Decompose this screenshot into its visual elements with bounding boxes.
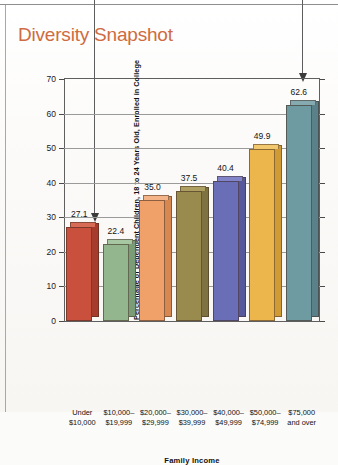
y-tick-20 <box>59 252 64 253</box>
bar-1: 27.1 <box>66 227 92 321</box>
bar-4: 37.5 <box>176 191 202 321</box>
page-title: Diversity Snapshot <box>18 24 173 46</box>
bar-value-label: 40.4 <box>217 163 234 173</box>
plot-frame-bottom <box>64 321 320 322</box>
plot-area: Percentage of Dependent Children, 18 to … <box>64 78 320 322</box>
x-tick-label-2: $10,000–$19,999 <box>101 408 138 427</box>
page-rule-top <box>0 4 338 5</box>
y-tick-10 <box>59 286 64 287</box>
y-tick-label-30: 30 <box>34 212 56 222</box>
x-tick-label-4: $30,000–$39,999 <box>174 408 211 427</box>
bar-front-face <box>213 181 239 321</box>
bar-value-label: 62.6 <box>290 87 307 97</box>
plot-frame-left <box>64 78 65 322</box>
x-tick-label-line: $39,999 <box>174 418 211 428</box>
y-tick-right-30 <box>320 217 325 218</box>
y-tick-right-60 <box>320 114 325 115</box>
y-tick-right-70 <box>320 79 325 80</box>
bar-front-face <box>249 149 275 322</box>
y-tick-40 <box>59 183 64 184</box>
y-tick-label-10: 10 <box>34 281 56 291</box>
y-tick-right-0 <box>320 321 325 322</box>
y-tick-label-20: 20 <box>34 247 56 257</box>
y-tick-label-50: 50 <box>34 143 56 153</box>
bar-6: 49.9 <box>249 149 275 322</box>
bar-side-face <box>129 240 136 317</box>
bar-value-label: 22.4 <box>108 226 125 236</box>
bar-value-label: 27.1 <box>71 209 88 219</box>
y-tick-label-0: 0 <box>34 316 56 326</box>
bar-side-face <box>312 101 319 317</box>
bar-7: 62.6 <box>286 105 312 321</box>
y-tick-50 <box>59 148 64 149</box>
bar-value-label: 37.5 <box>181 173 198 183</box>
bar-side-face <box>202 187 209 317</box>
bar-value-label: 49.9 <box>254 131 271 141</box>
y-tick-60 <box>59 114 64 115</box>
x-tick-label-line: Under <box>64 408 101 418</box>
x-tick-label-line: $74,999 <box>247 418 284 428</box>
bar-5: 40.4 <box>213 181 239 321</box>
x-tick-label-line: $50,000– <box>247 408 284 418</box>
y-tick-right-50 <box>320 148 325 149</box>
y-tick-label-60: 60 <box>34 109 56 119</box>
x-tick-label-line: $49,999 <box>210 418 247 428</box>
bar-front-face <box>66 227 92 321</box>
plot-frame-top <box>64 78 320 79</box>
bar-side-face <box>92 223 99 317</box>
bar-side-face <box>239 177 246 317</box>
x-tick-label-line: $10,000– <box>101 408 138 418</box>
leader-line-highest <box>302 0 303 74</box>
page-rule-left <box>5 5 6 412</box>
plot-frame-right <box>319 78 320 322</box>
x-tick-label-line: $30,000– <box>174 408 211 418</box>
y-tick-30 <box>59 217 64 218</box>
y-tick-0 <box>59 321 64 322</box>
x-tick-label-line: $40,000– <box>210 408 247 418</box>
bar-3: 35.0 <box>139 200 165 321</box>
bar-2: 22.4 <box>103 244 129 321</box>
x-tick-label-5: $40,000–$49,999 <box>210 408 247 427</box>
bar-front-face <box>176 191 202 321</box>
y-tick-label-70: 70 <box>34 74 56 84</box>
y-tick-right-20 <box>320 252 325 253</box>
bar-side-face <box>165 196 172 317</box>
x-axis-title: Family Income <box>64 456 320 465</box>
x-tick-label-line: $75,000 <box>283 408 320 418</box>
y-tick-label-40: 40 <box>34 178 56 188</box>
y-tick-right-40 <box>320 183 325 184</box>
y-tick-right-10 <box>320 286 325 287</box>
bar-side-face <box>275 145 282 318</box>
x-tick-label-7: $75,000and over <box>283 408 320 427</box>
gridline-60 <box>64 114 320 115</box>
x-tick-label-6: $50,000–$74,999 <box>247 408 284 427</box>
x-tick-label-line: $29,999 <box>137 418 174 428</box>
bar-front-face <box>139 200 165 321</box>
bar-value-label: 35.0 <box>144 182 161 192</box>
x-tick-label-line: and over <box>283 418 320 428</box>
x-tick-label-3: $20,000–$29,999 <box>137 408 174 427</box>
bar-front-face <box>103 244 129 321</box>
x-tick-label-line: $19,999 <box>101 418 138 428</box>
y-tick-70 <box>59 79 64 80</box>
x-tick-label-line: $20,000– <box>137 408 174 418</box>
x-tick-label-line: $10,000 <box>64 418 101 428</box>
x-tick-label-1: Under$10,000 <box>64 408 101 427</box>
bar-front-face <box>286 105 312 321</box>
